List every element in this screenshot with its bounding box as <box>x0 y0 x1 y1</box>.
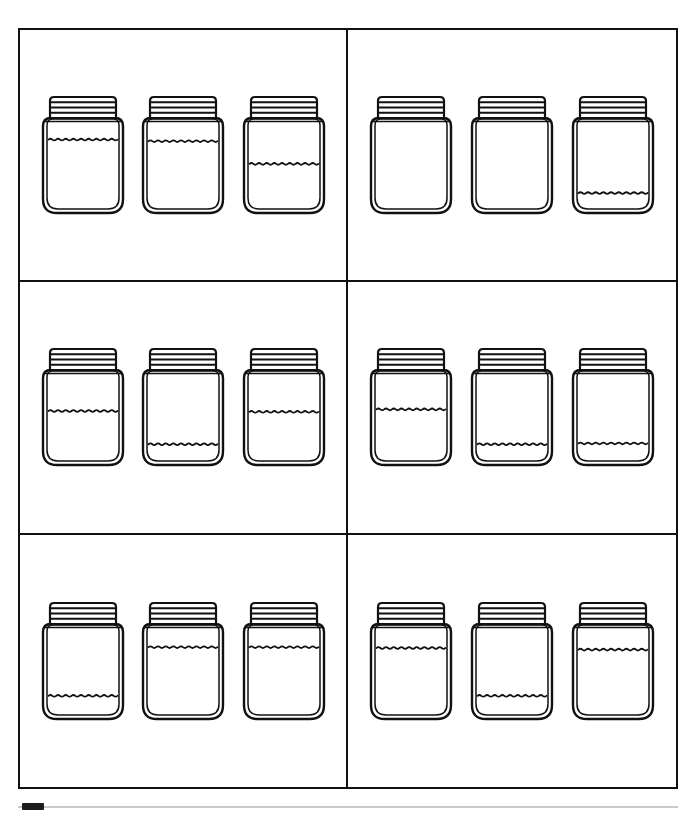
jar-body-outline <box>472 624 552 719</box>
jar-illustration <box>238 343 330 471</box>
jar[interactable] <box>365 91 457 219</box>
jar[interactable] <box>466 597 558 725</box>
jar-illustration <box>466 343 558 471</box>
jar-body-outline <box>143 624 223 719</box>
jar[interactable] <box>137 597 229 725</box>
jar-illustration <box>137 343 229 471</box>
jar[interactable] <box>365 597 457 725</box>
jar-illustration <box>137 91 229 219</box>
page-bottom-rule <box>18 806 678 808</box>
jar-body-outline <box>371 624 451 719</box>
jar-body-outline <box>143 118 223 213</box>
worksheet-grid <box>18 28 678 789</box>
jar-illustration <box>466 597 558 725</box>
jar-illustration <box>137 597 229 725</box>
jar[interactable] <box>567 91 659 219</box>
jar[interactable] <box>37 343 129 471</box>
jar[interactable] <box>567 343 659 471</box>
jar-body-outline <box>43 370 123 465</box>
jar-body-outline <box>43 624 123 719</box>
jar-illustration <box>365 343 457 471</box>
jar[interactable] <box>466 343 558 471</box>
jar[interactable] <box>137 91 229 219</box>
jar-illustration <box>466 91 558 219</box>
worksheet-panel-middle-right[interactable] <box>348 282 676 534</box>
jar-body-outline <box>472 118 552 213</box>
page-bottom-tab-marker <box>22 803 44 810</box>
jar-illustration <box>567 343 659 471</box>
jar-body-outline <box>371 370 451 465</box>
jar-body-outline <box>371 118 451 213</box>
jar-body-outline <box>573 624 653 719</box>
jar[interactable] <box>567 597 659 725</box>
worksheet-panel-top-right[interactable] <box>348 30 676 282</box>
jar-body-outline <box>43 118 123 213</box>
jar-illustration <box>37 343 129 471</box>
worksheet-panel-top-left[interactable] <box>20 30 348 282</box>
jar-body-outline <box>244 624 324 719</box>
jar-body-outline <box>573 118 653 213</box>
jar[interactable] <box>137 343 229 471</box>
jar-illustration <box>365 91 457 219</box>
jar-body-outline <box>573 370 653 465</box>
jar[interactable] <box>238 343 330 471</box>
jar[interactable] <box>37 91 129 219</box>
jar[interactable] <box>238 91 330 219</box>
worksheet-panel-bottom-left[interactable] <box>20 535 348 787</box>
jar-illustration <box>37 597 129 725</box>
jar-illustration <box>567 91 659 219</box>
jar-illustration <box>238 91 330 219</box>
jar-illustration <box>37 91 129 219</box>
jar[interactable] <box>37 597 129 725</box>
jar-illustration <box>567 597 659 725</box>
worksheet-panel-bottom-right[interactable] <box>348 535 676 787</box>
jar[interactable] <box>238 597 330 725</box>
jar-body-outline <box>472 370 552 465</box>
worksheet-panel-middle-left[interactable] <box>20 282 348 534</box>
jar[interactable] <box>365 343 457 471</box>
jar-body-outline <box>244 370 324 465</box>
jar-body-outline <box>143 370 223 465</box>
jar-illustration <box>238 597 330 725</box>
jar[interactable] <box>466 91 558 219</box>
jar-illustration <box>365 597 457 725</box>
